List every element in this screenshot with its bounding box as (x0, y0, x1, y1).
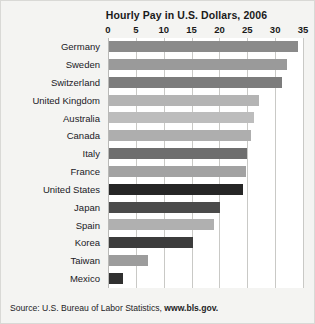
x-tick-label-35: 35 (298, 24, 309, 35)
bar-germany (109, 41, 298, 52)
category-label-canada: Canada (67, 131, 100, 141)
category-label-row: Sweden (0, 56, 104, 74)
source-note: Source: U.S. Bureau of Labor Statistics,… (10, 303, 218, 313)
category-label-germany: Germany (61, 42, 100, 52)
bar-row (109, 127, 304, 145)
bar-italy (109, 148, 247, 159)
category-label-row: Canada (0, 127, 104, 145)
category-label-sweden: Sweden (66, 60, 100, 70)
category-label-row: United Kingdom (0, 92, 104, 110)
category-label-japan: Japan (74, 203, 100, 213)
bar-france (109, 166, 246, 177)
x-tick-label-20: 20 (214, 24, 225, 35)
category-label-row: Korea (0, 234, 104, 252)
chart-figure: Hourly Pay in U.S. Dollars, 2006 0510152… (0, 0, 315, 324)
bar-row (109, 270, 304, 288)
bar-japan (109, 202, 220, 213)
category-label-row: Japan (0, 199, 104, 217)
category-label-united-states: United States (43, 185, 100, 195)
plot-area (108, 38, 304, 288)
bar-korea (109, 237, 193, 248)
bar-sweden (109, 59, 287, 70)
x-tick-label-25: 25 (242, 24, 253, 35)
category-label-row: Spain (0, 216, 104, 234)
bar-row (109, 56, 304, 74)
bar-row (109, 199, 304, 217)
bar-row (109, 216, 304, 234)
x-tick-label-5: 5 (133, 24, 138, 35)
x-tick-label-15: 15 (186, 24, 197, 35)
bar-row (109, 181, 304, 199)
category-label-mexico: Mexico (70, 274, 100, 284)
category-label-row: Mexico (0, 270, 104, 288)
x-tick-label-0: 0 (105, 24, 110, 35)
category-label-spain: Spain (76, 221, 100, 231)
category-label-switzerland: Switzerland (51, 78, 100, 88)
source-url: www.bls.gov. (164, 303, 218, 313)
bar-row (109, 163, 304, 181)
category-label-taiwan: Taiwan (70, 256, 100, 266)
source-text: Source: U.S. Bureau of Labor Statistics, (10, 303, 164, 313)
bar-switzerland (109, 77, 282, 88)
bar-taiwan (109, 255, 148, 266)
bar-row (109, 38, 304, 56)
category-label-united-kingdom: United Kingdom (32, 96, 100, 106)
category-label-row: Germany (0, 38, 104, 56)
category-label-france: France (70, 167, 100, 177)
category-label-row: United States (0, 181, 104, 199)
bar-row (109, 74, 304, 92)
category-label-australia: Australia (63, 114, 100, 124)
category-label-row: France (0, 163, 104, 181)
x-tick-label-10: 10 (158, 24, 169, 35)
bar-row (109, 234, 304, 252)
category-label-row: Australia (0, 109, 104, 127)
category-label-row: Italy (0, 145, 104, 163)
bar-rows (109, 38, 304, 288)
bar-canada (109, 130, 251, 141)
category-labels: GermanySwedenSwitzerlandUnited KingdomAu… (0, 38, 104, 288)
chart-title: Hourly Pay in U.S. Dollars, 2006 (0, 9, 307, 21)
bar-australia (109, 112, 254, 123)
bar-united-states (109, 184, 243, 195)
bar-mexico (109, 273, 123, 284)
bar-row (109, 92, 304, 110)
category-label-row: Switzerland (0, 74, 104, 92)
category-label-italy: Italy (83, 149, 100, 159)
bar-row (109, 252, 304, 270)
bar-united-kingdom (109, 95, 259, 106)
bar-row (109, 145, 304, 163)
bar-spain (109, 219, 214, 230)
x-tick-label-30: 30 (270, 24, 281, 35)
category-label-row: Taiwan (0, 252, 104, 270)
category-label-korea: Korea (75, 238, 100, 248)
x-axis-tick-labels: 05101520253035 (108, 24, 303, 37)
bar-row (109, 109, 304, 127)
